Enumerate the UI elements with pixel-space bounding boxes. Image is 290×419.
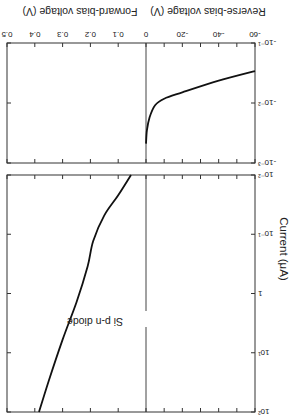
reverse-panel-frame (7, 43, 255, 163)
x-tick-label: 0.3 (56, 30, 68, 39)
y-tick-label: 1 (257, 289, 262, 298)
y-tick-label: 10² (258, 407, 270, 416)
x-tick-label: 0 (143, 30, 148, 39)
y-axis: 10⁻²10⁻¹110¹10²-10⁻³-10⁻²-10⁻¹ (7, 38, 276, 416)
y-tick-label: -10⁻² (258, 98, 277, 107)
y-tick-label: -10⁻³ (258, 158, 277, 167)
x-tick-label: -40 (212, 30, 224, 39)
current-axis-title: Current (μA) (278, 217, 290, 281)
y-tick-label: 10¹ (258, 348, 270, 357)
diode-iv-chart: 0.50.40.30.20.10-20-40-60 10⁻²10⁻¹110¹10… (0, 0, 290, 419)
x-tick-label: -20 (176, 30, 188, 39)
reverse-current-curve (146, 71, 255, 144)
reverse-bias-axis-title: Reverse-bias voltage (V) (150, 6, 266, 18)
x-tick-label: 0.5 (1, 30, 13, 39)
forward-panel-frame (7, 175, 255, 412)
zero-line-gap (143, 311, 149, 327)
x-tick-label: 0.4 (29, 30, 41, 39)
forward-bias-panel (7, 175, 255, 412)
y-tick-label: -10⁻¹ (258, 38, 277, 47)
forward-current-curve (39, 175, 131, 412)
forward-bias-axis-title: Forward-bias voltage (V) (23, 6, 138, 18)
x-axis: 0.50.40.30.20.10-20-40-60 (1, 30, 261, 412)
reverse-bias-panel (7, 43, 255, 163)
x-tick-label: 0.1 (112, 30, 124, 39)
chart-canvas: 0.50.40.30.20.10-20-40-60 10⁻²10⁻¹110¹10… (0, 0, 290, 419)
y-tick-label: 10⁻¹ (258, 229, 274, 238)
diode-label: Si p-n diode (67, 316, 123, 328)
x-tick-label: 0.2 (84, 30, 96, 39)
y-tick-label: 10⁻² (258, 170, 274, 179)
